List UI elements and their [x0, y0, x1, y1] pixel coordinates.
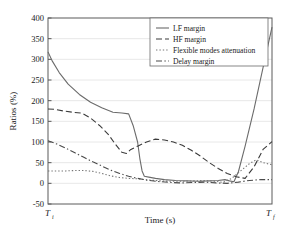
- line-chart: 400350300250200150100500-50 Ratios (%) T…: [0, 0, 301, 240]
- y-tick-label: 150: [31, 116, 44, 126]
- y-tick-label: -50: [33, 199, 44, 209]
- y-tick-label: 350: [31, 34, 44, 44]
- y-tick-label: 400: [31, 13, 44, 23]
- y-tick-label: 200: [31, 96, 44, 106]
- y-tick-label: 250: [31, 75, 44, 85]
- legend-label: Delay margin: [173, 57, 215, 66]
- y-tick-label: 0: [40, 178, 44, 188]
- y-tick-label: 300: [31, 54, 44, 64]
- legend-label: Flexible modes attenuation: [173, 46, 255, 55]
- chart-figure: 400350300250200150100500-50 Ratios (%) T…: [0, 0, 301, 240]
- x-axis-title: Time (s): [145, 215, 175, 225]
- y-tick-label: 50: [36, 158, 45, 168]
- legend-label: LF margin: [173, 24, 205, 33]
- y-tick-label: 100: [31, 137, 44, 147]
- y-axis-title: Ratios (%): [8, 92, 18, 131]
- chart-legend: LF marginHF marginFlexible modes attenua…: [150, 18, 268, 66]
- legend-label: HF margin: [173, 35, 206, 44]
